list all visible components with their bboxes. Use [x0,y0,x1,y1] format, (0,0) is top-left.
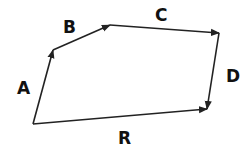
vector-r-arrow [33,109,207,124]
vector-b-arrow [53,25,110,50]
vector-r-label: R [118,128,131,148]
vector-a-label: A [17,78,31,98]
vector-c-arrow [110,25,219,33]
vector-d-label: D [226,66,240,86]
vector-diagram: ABCDR [0,0,248,151]
vector-c-label: C [155,5,167,25]
vector-b-label: B [63,17,76,37]
vector-a-arrow [33,50,53,124]
vector-d-arrow [207,33,219,109]
